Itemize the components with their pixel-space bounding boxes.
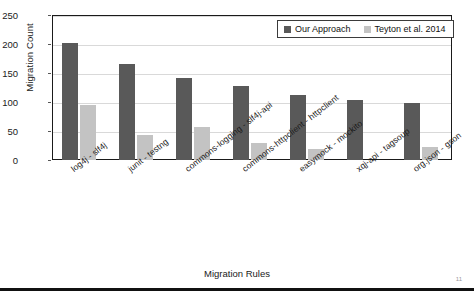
y-axis-tick-mark	[48, 102, 51, 103]
bar-our-approach	[62, 43, 78, 160]
legend-label: Teyton et al. 2014	[375, 24, 446, 34]
x-axis-title: Migration Rules	[0, 268, 474, 279]
page-number: 11	[456, 276, 462, 282]
bar-teyton	[194, 127, 210, 160]
y-axis-tick-label: 250	[0, 10, 18, 21]
bar-group	[62, 15, 96, 160]
bar-teyton	[422, 147, 438, 160]
legend-item-our-approach: Our Approach	[284, 24, 351, 34]
y-axis-tick-mark	[48, 73, 51, 74]
page-divider	[0, 288, 474, 291]
bar-teyton	[251, 143, 267, 160]
legend-label: Our Approach	[295, 24, 351, 34]
legend-swatch-icon	[284, 26, 291, 33]
y-axis-tick-mark	[48, 160, 51, 161]
y-axis-tick-label: 200	[0, 39, 18, 50]
bar-group	[176, 15, 210, 160]
bar-teyton	[308, 149, 324, 160]
y-axis-tick-mark	[48, 44, 51, 45]
bar-our-approach	[119, 64, 135, 160]
gridline	[53, 161, 451, 162]
legend-swatch-icon	[364, 26, 371, 33]
y-axis-tick-mark	[48, 131, 51, 132]
bar-teyton	[137, 135, 153, 160]
legend-item-teyton: Teyton et al. 2014	[364, 24, 446, 34]
bar-our-approach	[176, 78, 192, 160]
y-axis-tick-label: 150	[0, 68, 18, 79]
bar-our-approach	[404, 103, 420, 160]
bar-our-approach	[290, 95, 306, 160]
y-axis-tick-label: 50	[0, 126, 18, 137]
bar-our-approach	[233, 86, 249, 160]
chart-legend: Our Approach Teyton et al. 2014	[277, 20, 454, 38]
bar-chart-figure: Migration Count 050100150200250 Our Appr…	[0, 0, 474, 303]
bar-our-approach	[347, 100, 363, 160]
y-axis-tick-label: 100	[0, 97, 18, 108]
bar-group	[119, 15, 153, 160]
bar-group	[233, 15, 267, 160]
bar-teyton	[80, 105, 96, 160]
y-axis-tick-mark	[48, 15, 51, 16]
y-axis-tick-label: 0	[0, 155, 18, 166]
y-axis-title: Migration Count	[24, 0, 35, 123]
